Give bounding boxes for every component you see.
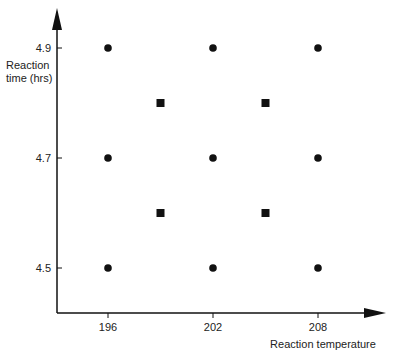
y-tick-label: 4.9 — [36, 42, 51, 54]
circle-marker-icon — [314, 154, 322, 162]
circle-marker-icon — [104, 154, 112, 162]
circle-marker-icon — [209, 154, 217, 162]
y-tick-label: 4.5 — [36, 262, 51, 274]
y-axis — [52, 8, 62, 313]
square-marker-icon — [157, 99, 165, 107]
square-marker-icon — [262, 209, 270, 217]
x-tick-label: 202 — [204, 321, 222, 333]
circle-marker-icon — [314, 264, 322, 272]
y-axis-title-line-1: Reaction — [6, 59, 49, 71]
x-axis — [57, 308, 386, 318]
circle-marker-icon — [209, 44, 217, 52]
y-axis-arrow-icon — [52, 8, 62, 30]
circle-marker-icon — [314, 44, 322, 52]
circle-marker-icon — [104, 264, 112, 272]
x-axis-arrow-icon — [364, 308, 386, 318]
square-marker-icon — [157, 209, 165, 217]
x-ticks: 196202208 — [99, 313, 327, 333]
circle-marker-icon — [209, 264, 217, 272]
y-axis-title-line-2: time (hrs) — [6, 72, 52, 84]
circle-marker-icon — [104, 44, 112, 52]
x-tick-label: 196 — [99, 321, 117, 333]
x-tick-label: 208 — [309, 321, 327, 333]
scatter-chart: 196202208 4.54.74.9 Reaction temperature… — [0, 0, 393, 358]
x-axis-title: Reaction temperature — [270, 338, 376, 350]
y-axis-title: Reaction time (hrs) — [6, 59, 52, 84]
square-marker-icon — [262, 99, 270, 107]
y-tick-label: 4.7 — [36, 152, 51, 164]
data-points — [104, 44, 322, 272]
